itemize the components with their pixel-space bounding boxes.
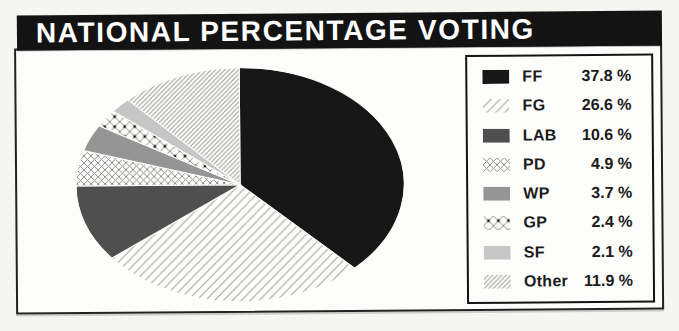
legend-value: 3.7 % (591, 184, 632, 202)
legend-item-fg: FG 26.6 % (482, 91, 631, 120)
legend-item-wp: WP 3.7 % (483, 179, 632, 208)
legend-swatch-fg (482, 99, 509, 113)
legend-item-sf: SF 2.1 % (484, 237, 633, 266)
legend-swatch-lab (483, 128, 510, 142)
swatch-fill (483, 216, 510, 230)
scanned-chart-page: NATIONAL PERCENTAGE VOTING (0, 0, 679, 331)
legend-value: 2.1 % (592, 242, 633, 260)
legend-value: 2.4 % (591, 213, 632, 231)
legend-swatch-other (484, 274, 511, 288)
legend-label: SF (524, 243, 545, 261)
legend-swatch-sf (484, 245, 511, 259)
legend: FF 37.8 % FG 26.6 % LAB 10.6 % PD 4.9 % … (465, 54, 655, 304)
legend-label: FG (522, 97, 545, 115)
legend-value: 26.6 % (582, 96, 632, 114)
legend-item-pd: PD 4.9 % (483, 150, 632, 179)
legend-value: 10.6 % (582, 125, 632, 143)
scan-skew-wrapper: NATIONAL PERCENTAGE VOTING (0, 0, 679, 331)
legend-label: GP (523, 214, 547, 232)
legend-value: 4.9 % (591, 155, 632, 173)
legend-item-other: Other 11.9 % (484, 266, 633, 295)
swatch-fill (484, 245, 511, 259)
swatch-fill (482, 70, 509, 84)
legend-label: LAB (523, 126, 557, 144)
legend-swatch-pd (483, 158, 510, 172)
pie-slices-group (75, 66, 405, 303)
swatch-fill (484, 274, 511, 288)
legend-item-ff: FF 37.8 % (482, 62, 631, 91)
legend-value: 11.9 % (584, 271, 633, 289)
legend-label: WP (523, 184, 550, 202)
legend-value: 37.8 % (581, 67, 631, 85)
swatch-fill (482, 99, 509, 113)
legend-swatch-ff (482, 70, 509, 84)
legend-label: PD (523, 155, 546, 173)
swatch-fill (483, 158, 510, 172)
swatch-fill (483, 128, 510, 142)
legend-swatch-wp (483, 187, 510, 201)
legend-swatch-gp (483, 216, 510, 230)
legend-label: Other (524, 272, 568, 290)
legend-label: FF (522, 68, 542, 86)
swatch-fill (483, 187, 510, 201)
legend-item-lab: LAB 10.6 % (483, 120, 632, 149)
legend-item-gp: GP 2.4 % (483, 208, 632, 237)
chart-title: NATIONAL PERCENTAGE VOTING (17, 14, 535, 47)
chart-title-bar: NATIONAL PERCENTAGE VOTING (17, 10, 662, 50)
